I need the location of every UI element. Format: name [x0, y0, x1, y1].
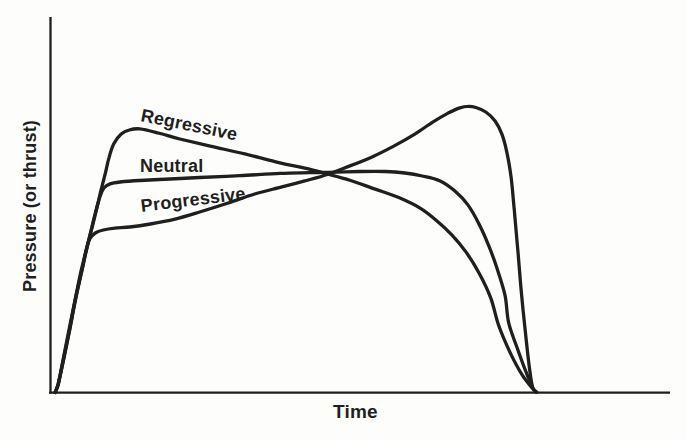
curve-neutral — [55, 171, 536, 392]
burn-profile-figure: Pressure (or thrust) Time Regressive Neu… — [0, 0, 686, 440]
x-axis-label: Time — [333, 402, 378, 423]
chart-canvas — [0, 0, 686, 440]
curve-regressive — [55, 129, 536, 393]
y-axis-label: Pressure (or thrust) — [21, 120, 41, 292]
curve-label-neutral: Neutral — [140, 157, 203, 177]
